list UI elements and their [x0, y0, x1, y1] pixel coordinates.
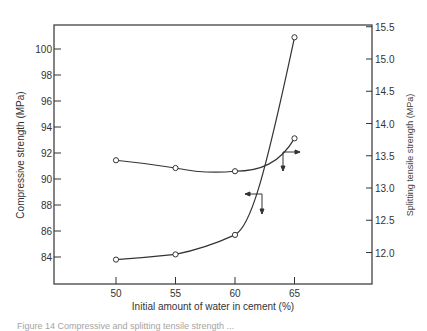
y2-axis-label: Splitting tensile strength (MPa) — [405, 94, 415, 217]
y2-tick-label: 14.5 — [375, 86, 395, 97]
figure-caption: Figure 14 Compressive and splitting tens… — [17, 321, 234, 331]
data-point-marker — [113, 158, 118, 163]
compressive-strength-line — [116, 37, 295, 259]
y-tick-label: 88 — [41, 200, 53, 211]
y-axis-label: Compressive strength (MPa) — [15, 91, 26, 218]
y2-tick-label: 15.5 — [375, 22, 395, 33]
x-axis: 50556065 — [110, 277, 300, 299]
y2-tick-label: 12.0 — [375, 248, 395, 259]
arrow-to-left-axis-icon — [245, 192, 264, 214]
y2-tick-label: 13.5 — [375, 151, 395, 162]
left-axis: 8486889092949698100 — [35, 44, 61, 263]
data-point-marker — [292, 136, 297, 141]
y-tick-label: 100 — [35, 44, 52, 55]
y2-tick-label: 15.0 — [375, 54, 395, 65]
y-tick-label: 98 — [41, 70, 53, 81]
x-tick-label: 55 — [170, 288, 182, 299]
x-axis-label: Initial amount of water in cement (%) — [132, 301, 294, 312]
x-tick-label: 65 — [289, 288, 301, 299]
series-lines — [113, 35, 297, 263]
y-tick-label: 84 — [41, 252, 53, 263]
y-tick-label: 86 — [41, 226, 53, 237]
y2-tick-label: 13.0 — [375, 183, 395, 194]
chart: 8486889092949698100 12.012.513.013.514.0… — [0, 0, 427, 331]
right-axis: 12.012.513.013.514.014.515.015.5 — [366, 22, 395, 259]
y2-tick-label: 12.5 — [375, 215, 395, 226]
data-point-marker — [113, 257, 118, 262]
y-tick-label: 96 — [41, 96, 53, 107]
y2-tick-label: 14.0 — [375, 119, 395, 130]
x-tick-label: 60 — [229, 288, 241, 299]
y-tick-label: 94 — [41, 122, 53, 133]
data-point-marker — [232, 169, 237, 174]
y-tick-label: 92 — [41, 148, 53, 159]
data-point-marker — [173, 252, 178, 257]
data-point-marker — [232, 232, 237, 237]
plot-frame — [54, 25, 372, 284]
data-point-marker — [173, 165, 178, 170]
data-point-marker — [292, 35, 297, 40]
y-tick-label: 90 — [41, 174, 53, 185]
x-tick-label: 50 — [110, 288, 122, 299]
